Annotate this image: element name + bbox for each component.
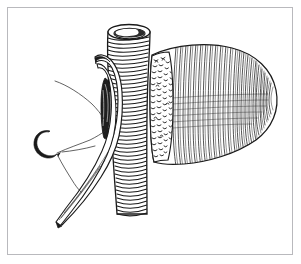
suture-thread-tail [58, 156, 81, 192]
needle-crescent [34, 131, 57, 159]
illustration-canvas [0, 0, 301, 264]
organ-cut-surface [150, 52, 173, 162]
suture-needle [34, 131, 61, 159]
illustration-figure: Surgical illustration: forceps grasping … [0, 0, 301, 264]
organ-group [150, 43, 277, 167]
suture-thread-lower [57, 131, 105, 153]
suture-thread-upper [55, 81, 104, 119]
